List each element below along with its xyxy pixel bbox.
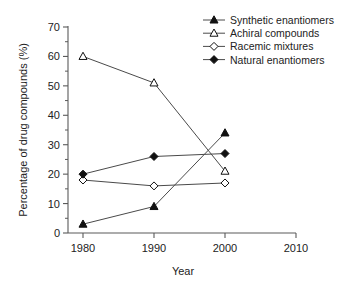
x-tick-label: 1990: [142, 242, 166, 254]
data-point: [79, 52, 87, 59]
data-point: [221, 150, 229, 158]
y-tick-label: 60: [48, 50, 60, 62]
y-tick-label: 40: [48, 109, 60, 121]
y-tick-label: 30: [48, 139, 60, 151]
y-tick-label: 20: [48, 168, 60, 180]
legend-item: Racemic mixtures: [203, 40, 313, 52]
legend-label: Achiral compounds: [230, 27, 319, 39]
legend-marker: [210, 16, 218, 23]
x-tick-label: 2000: [213, 242, 237, 254]
legend-label: Racemic mixtures: [230, 40, 313, 52]
legend: Synthetic enantiomersAchiral compoundsRa…: [203, 14, 334, 66]
legend-marker: [210, 42, 218, 50]
legend-label: Synthetic enantiomers: [230, 14, 334, 26]
y-axis-title: Percentage of drug compounds (%): [17, 43, 29, 217]
y-tick-label: 70: [48, 21, 60, 33]
x-tick-label: 2010: [284, 242, 308, 254]
data-point: [79, 170, 87, 178]
data-point: [221, 129, 229, 136]
legend-item: Natural enantiomers: [203, 54, 325, 66]
y-tick-label: 0: [54, 227, 60, 239]
x-axis-title: Year: [172, 265, 195, 277]
series-0: [79, 129, 229, 227]
y-tick-label: 50: [48, 80, 60, 92]
data-point: [150, 182, 158, 190]
series-line: [83, 133, 225, 224]
series-3: [79, 150, 229, 179]
x-tick-label: 1980: [71, 242, 95, 254]
legend-item: Synthetic enantiomers: [203, 14, 334, 26]
legend-item: Achiral compounds: [203, 27, 319, 39]
series-2: [79, 176, 229, 190]
y-tick-label: 10: [48, 198, 60, 210]
data-point: [221, 179, 229, 187]
line-chart: 0102030405060701980199020002010YearPerce…: [0, 0, 351, 287]
legend-marker: [210, 29, 218, 36]
legend-marker: [210, 56, 218, 64]
data-point: [150, 152, 158, 160]
chart-container: 0102030405060701980199020002010YearPerce…: [0, 0, 351, 287]
legend-label: Natural enantiomers: [230, 54, 325, 66]
